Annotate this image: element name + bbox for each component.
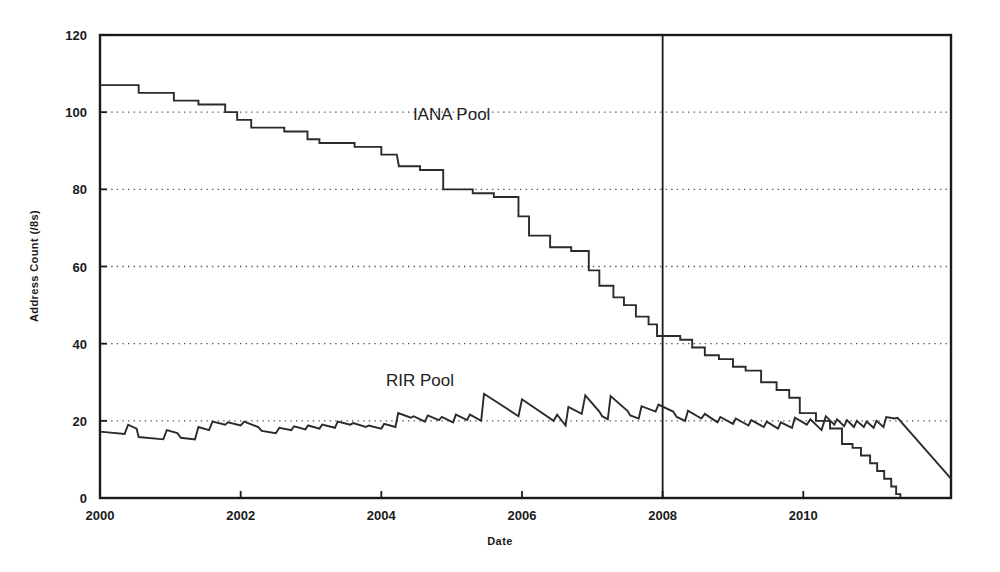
y-tick-label-60: 60 bbox=[73, 260, 87, 275]
x-tick-label-2002: 2002 bbox=[226, 508, 255, 523]
x-tick-label-2000: 2000 bbox=[86, 508, 115, 523]
x-tick-label-2004: 2004 bbox=[367, 508, 397, 523]
y-tick-label-120: 120 bbox=[65, 28, 87, 43]
y-tick-label-80: 80 bbox=[73, 182, 87, 197]
y-axis-title: Address Count (/8s) bbox=[28, 210, 40, 322]
address-count-line-chart: 200020022004200620082010 020406080100120… bbox=[0, 0, 1000, 572]
annotation-iana-pool: IANA Pool bbox=[413, 105, 491, 124]
x-tick-label-2006: 2006 bbox=[508, 508, 537, 523]
chart-background bbox=[0, 0, 1000, 572]
x-tick-label-2008: 2008 bbox=[648, 508, 677, 523]
annotation-rir-pool: RIR Pool bbox=[386, 371, 454, 390]
y-tick-label-40: 40 bbox=[73, 337, 87, 352]
y-tick-label-0: 0 bbox=[80, 491, 87, 506]
x-axis-title: Date bbox=[487, 535, 512, 547]
y-tick-label-20: 20 bbox=[73, 414, 87, 429]
chart-container: 200020022004200620082010 020406080100120… bbox=[0, 0, 1000, 572]
x-tick-label-2010: 2010 bbox=[789, 508, 818, 523]
y-tick-label-100: 100 bbox=[65, 105, 87, 120]
